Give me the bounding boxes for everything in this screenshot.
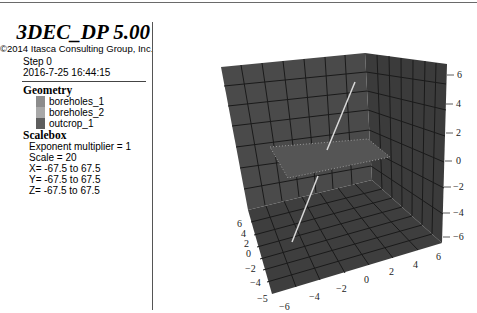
step-label: Step 0 <box>23 56 52 67</box>
z-tick: −2 <box>453 181 464 192</box>
y-tick: −5 <box>257 293 268 304</box>
z-tick: 6 <box>457 69 462 80</box>
legend-item-outcrop-1: outcrop_1 <box>49 118 93 129</box>
x-tick: −4 <box>309 291 320 302</box>
legend-item-boreholes-2: boreholes_2 <box>49 107 104 118</box>
x-tick: −2 <box>336 283 347 294</box>
swatch-boreholes-2 <box>36 107 45 118</box>
y-range: Y= -67.5 to 67.5 <box>29 174 100 185</box>
x-tick: 0 <box>364 274 369 285</box>
y-tick: −4 <box>250 277 261 288</box>
x-tick: 6 <box>436 251 441 262</box>
scale-value: Scale = 20 <box>29 152 77 163</box>
z-tick: −4 <box>453 207 464 218</box>
z-range: Z= -67.5 to 67.5 <box>29 185 100 196</box>
app-title: 3DEC_DP 5.00 <box>0 21 150 43</box>
swatch-boreholes-1 <box>36 96 45 107</box>
legend-panel: 3DEC_DP 5.00 ©2014 Itasca Consulting Gro… <box>0 0 152 313</box>
z-tick: 0 <box>456 155 461 166</box>
3d-viewport[interactable]: 6 4 2 0 −2 −4 −6 6 4 2 0 −2 −4 −5 −6 −4 … <box>154 4 477 313</box>
copyright-text: ©2014 Itasca Consulting Group, Inc. <box>0 43 150 54</box>
x-tick: 4 <box>413 259 418 270</box>
swatch-outcrop-1 <box>36 118 45 129</box>
geometry-heading: Geometry <box>23 84 72 96</box>
z-tick: 2 <box>456 127 461 138</box>
z-tick: −6 <box>453 231 464 242</box>
panel-divider <box>152 22 153 310</box>
legend-item-boreholes-1: boreholes_1 <box>49 96 104 107</box>
scalebox-heading: Scalebox <box>23 129 66 141</box>
legend-separator <box>22 81 146 82</box>
z-tick: 4 <box>456 98 461 109</box>
x-tick: 2 <box>389 266 394 277</box>
x-tick: −6 <box>279 301 290 312</box>
y-tick: 0 <box>246 248 251 259</box>
timestamp: 2016-7-25 16:44:15 <box>23 67 110 78</box>
x-range: X= -67.5 to 67.5 <box>29 163 100 174</box>
exponent-multiplier: Exponent multiplier = 1 <box>29 141 131 152</box>
y-tick: −2 <box>245 263 256 274</box>
